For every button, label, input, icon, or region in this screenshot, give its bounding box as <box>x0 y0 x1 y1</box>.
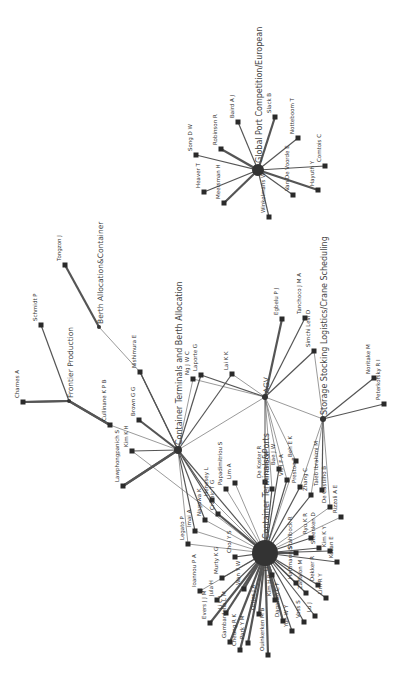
author-label-choi: Choi Y S <box>226 530 232 553</box>
author-label-nishimura: Nishimura E <box>131 334 137 368</box>
author-node-notteboom[interactable] <box>296 136 301 141</box>
author-label-hayuth: Hayuth Y <box>309 160 316 186</box>
edge-tanchoco-agv <box>265 318 305 397</box>
author-label-laporte: Laporte G <box>192 344 199 371</box>
author-node-evers[interactable] <box>208 621 213 626</box>
author-label-egbelu: Egbelu P J <box>273 287 280 315</box>
author-node-laikk[interactable] <box>230 372 235 377</box>
author-node-cullinane[interactable] <box>108 423 113 428</box>
author-node-kozan[interactable] <box>335 560 340 565</box>
author-node-lawphong[interactable] <box>121 484 126 489</box>
author-node-nishimura[interactable] <box>138 370 143 375</box>
author-label-lawphong: Lawphongpanich S <box>114 430 121 482</box>
author-label-meersman: Meersman H <box>215 164 221 199</box>
author-node-robinson[interactable] <box>219 147 224 152</box>
hub-node-ctba[interactable] <box>174 446 182 454</box>
author-node-murty[interactable] <box>220 576 225 581</box>
author-node-wanyw[interactable] <box>242 587 247 592</box>
author-label-jula: Jula H <box>208 580 215 597</box>
author-node-zaffalon[interactable] <box>304 591 309 596</box>
author-node-heaver[interactable] <box>202 190 207 195</box>
author-node-legato[interactable] <box>186 542 191 547</box>
author-node-simchi[interactable] <box>312 349 317 354</box>
author-node-limr[interactable] <box>324 596 329 601</box>
author-node-peterkofsky[interactable] <box>382 402 387 407</box>
author-node-ng[interactable] <box>191 377 196 382</box>
author-node-tongzon[interactable] <box>63 263 68 268</box>
author-node-comtois[interactable] <box>323 164 328 169</box>
author-node-hayuth[interactable] <box>316 188 321 193</box>
author-node-meersman[interactable] <box>222 201 227 206</box>
author-label-zaffalon: Zaffalon M <box>297 560 303 589</box>
author-label-legato: Legato P <box>179 516 186 540</box>
author-label-crainic: Crainic T G <box>209 480 215 510</box>
author-label-gendreau: Gendreau M <box>263 451 269 485</box>
edge-simchi-agv <box>265 351 314 397</box>
author-node-schmidt[interactable] <box>39 323 44 328</box>
edge-lawphong-ctba <box>123 450 178 486</box>
author-node-laporte[interactable] <box>199 373 204 378</box>
author-node-yunwy[interactable] <box>290 629 295 634</box>
author-node-charnes[interactable] <box>21 400 26 405</box>
author-node-vandevoorde[interactable] <box>291 193 296 198</box>
hub-label-fp: Frontier Production <box>66 327 75 398</box>
author-label-comtois: Comtois C <box>316 134 322 162</box>
author-label-winkelmans: Winkelmans W <box>260 172 266 213</box>
author-node-imai[interactable] <box>193 529 198 534</box>
author-node-voss[interactable] <box>302 620 307 625</box>
author-node-crainic[interactable] <box>216 512 221 517</box>
edge-layer <box>23 117 384 655</box>
author-label-stahlbock: Stahlbock R <box>287 516 293 549</box>
hub-label-ctba: Container Terminals and Berth Allocation <box>175 281 184 445</box>
author-node-papadimitriou[interactable] <box>224 487 229 492</box>
hub-node-fp[interactable] <box>67 399 71 403</box>
author-node-baird[interactable] <box>236 120 241 125</box>
hub-node-agv[interactable] <box>262 394 268 400</box>
author-node-rizzoli[interactable] <box>339 515 344 520</box>
author-node-song[interactable] <box>194 153 199 158</box>
author-label-kimkv: Kim K Y <box>321 525 327 547</box>
author-label-ottjes: Ottjes J A <box>250 584 257 610</box>
author-label-notteboom: Notteboom T <box>289 97 295 134</box>
author-node-zhang[interactable] <box>309 493 314 498</box>
author-node-stahlbock[interactable] <box>294 551 299 556</box>
author-label-brown: Brown G G <box>130 387 136 416</box>
author-node-park[interactable] <box>246 641 251 646</box>
author-label-steenken: Steenken D <box>310 512 316 544</box>
author-label-beh: Beh E K <box>287 435 293 457</box>
author-label-kimkh: Kim K H <box>123 425 129 447</box>
label-layer: Global Port Competition/EuropeanFrontier… <box>14 27 382 651</box>
author-label-dekoster: De Koster R <box>256 446 262 478</box>
author-label-dunkerken: Ouinkerken M B <box>259 607 265 651</box>
author-node-kimkh[interactable] <box>130 449 135 454</box>
author-node-luj[interactable] <box>313 614 318 619</box>
author-node-brown[interactable] <box>137 418 142 423</box>
hub-label-ssl: Storage Stocking Logistics/Crane Schedul… <box>320 236 329 415</box>
hub-node-bac[interactable] <box>97 325 101 329</box>
edge-laikk-agv <box>232 374 265 397</box>
author-node-cheung[interactable] <box>238 648 243 653</box>
author-label-hartmann: Hartmann S <box>287 546 293 579</box>
author-label-tongzon: Tongzon J <box>56 235 63 262</box>
author-label-schmidt: Schmidt P <box>32 293 38 321</box>
edge-fp-charnes <box>23 401 69 402</box>
author-node-egbelu[interactable] <box>280 317 285 322</box>
author-node-lima[interactable] <box>233 481 238 486</box>
author-node-nagawa[interactable] <box>203 518 208 523</box>
network-diagram: Global Port Competition/EuropeanFrontier… <box>0 0 405 689</box>
author-label-imai: Imai A <box>186 509 192 527</box>
edge-schmidt-fp <box>41 325 69 401</box>
author-label-slack: Slack B <box>266 93 272 113</box>
hub-node-ssl[interactable] <box>320 416 326 422</box>
author-label-charnes: Charnes A <box>14 370 20 398</box>
author-label-song: Song D W <box>187 123 194 151</box>
author-node-dunkerken[interactable] <box>266 653 271 658</box>
edge-song-gpc <box>196 155 258 170</box>
author-label-taleb: Taleb Ibrahimi M <box>313 441 319 487</box>
author-node-choi[interactable] <box>233 555 238 560</box>
author-node-vis[interactable] <box>285 478 290 483</box>
author-label-voss: Voss S <box>295 600 301 618</box>
author-node-slack[interactable] <box>273 115 278 120</box>
author-node-winkelmans[interactable] <box>267 215 272 220</box>
author-label-yunwy: Yun W Y <box>283 604 289 628</box>
